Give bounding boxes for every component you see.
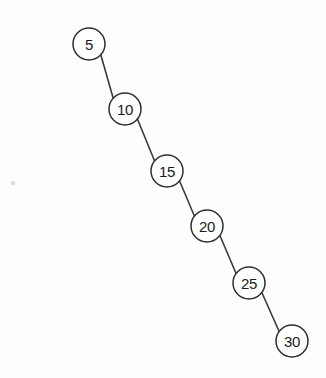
node-label-5: 5	[85, 36, 93, 53]
edge-5-to-10	[101, 55, 113, 98]
node-label-15: 15	[159, 163, 175, 180]
scan-artifact-speck	[11, 181, 15, 185]
tree-node-25[interactable]: 25	[233, 267, 265, 299]
tree-node-10[interactable]: 10	[109, 93, 141, 125]
edge-10-to-15	[137, 119, 155, 162]
edge-25-to-30	[262, 292, 280, 332]
tree-canvas: 5 10 15 20 25 30	[0, 0, 326, 378]
edge-20-to-25	[220, 235, 236, 274]
node-label-10: 10	[117, 101, 133, 118]
node-label-20: 20	[199, 218, 215, 235]
tree-node-30[interactable]: 30	[276, 325, 308, 357]
node-group: 5 10 15 20 25 30	[73, 28, 308, 357]
node-label-30: 30	[284, 333, 300, 350]
tree-node-5[interactable]: 5	[73, 28, 105, 60]
edge-15-to-20	[179, 180, 194, 217]
tree-node-15[interactable]: 15	[151, 155, 183, 187]
node-label-25: 25	[241, 275, 257, 292]
binary-search-tree-diagram: 5 10 15 20 25 30	[0, 0, 326, 378]
tree-node-20[interactable]: 20	[191, 210, 223, 242]
